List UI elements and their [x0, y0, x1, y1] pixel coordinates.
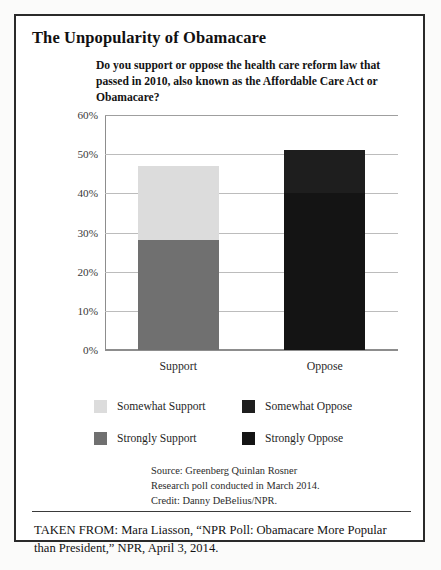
legend-swatch-icon	[242, 400, 255, 413]
legend-item-strongly-support: Strongly Support	[94, 432, 242, 445]
legend-item-strongly-oppose: Strongly Oppose	[242, 432, 414, 445]
source-credit: Source: Greenberg Quinlan Rosner Researc…	[151, 464, 381, 508]
page-background: The Unpopularity of Obamacare Do you sup…	[0, 0, 441, 570]
source-line-2: Research poll conducted in March 2014.	[151, 479, 381, 494]
y-axis-tick-label: 30%	[77, 227, 98, 239]
source-line-3: Credit: Danny DeBelius/NPR.	[151, 494, 381, 509]
y-axis-tick-label: 60%	[77, 109, 98, 121]
plot-area: 0%10%20%30%40%50%60%SupportOppose	[105, 115, 398, 350]
y-axis-tick-label: 0%	[83, 344, 98, 356]
chart-legend: Somewhat SupportSomewhat OpposeStrongly …	[94, 400, 414, 445]
gridline-0%	[105, 350, 398, 351]
legend-swatch-icon	[242, 432, 255, 445]
legend-swatch-icon	[94, 400, 107, 413]
bar-chart: 0%10%20%30%40%50%60%SupportOppose	[16, 100, 427, 390]
figure-frame: The Unpopularity of Obamacare Do you sup…	[14, 14, 425, 542]
legend-label: Strongly Support	[117, 432, 197, 445]
gridline-60%	[105, 115, 398, 116]
bar-oppose	[284, 150, 365, 350]
bar-segment-strongly-support	[138, 240, 219, 350]
y-axis-tick-label: 50%	[77, 148, 98, 160]
taken-from-caption: TAKEN FROM: Mara Liasson, “NPR Poll: Oba…	[34, 522, 406, 558]
bar-support	[138, 166, 219, 350]
x-axis-tick-label-support: Support	[160, 359, 197, 374]
section-divider	[32, 511, 411, 512]
legend-swatch-icon	[94, 432, 107, 445]
bar-segment-somewhat-support	[138, 166, 219, 240]
y-axis-tick-label: 10%	[77, 305, 98, 317]
legend-label: Strongly Oppose	[265, 432, 343, 445]
legend-label: Somewhat Oppose	[265, 400, 352, 413]
bar-segment-somewhat-oppose	[284, 150, 365, 193]
source-line-1: Source: Greenberg Quinlan Rosner	[151, 464, 381, 479]
legend-item-somewhat-oppose: Somewhat Oppose	[242, 400, 414, 413]
legend-item-somewhat-support: Somewhat Support	[94, 400, 242, 413]
bar-segment-strongly-oppose	[284, 193, 365, 350]
y-axis-tick-label: 40%	[77, 187, 98, 199]
chart-question-title: Do you support or oppose the health care…	[96, 58, 396, 106]
y-axis-tick-label: 20%	[77, 266, 98, 278]
x-axis-tick-label-oppose: Oppose	[307, 359, 343, 374]
legend-label: Somewhat Support	[117, 400, 206, 413]
page-title: The Unpopularity of Obamacare	[32, 28, 402, 48]
